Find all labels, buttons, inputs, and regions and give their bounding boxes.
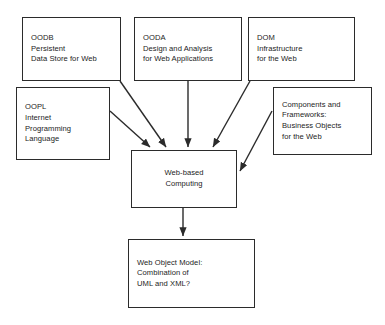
oopl-box-line: Programming [25, 124, 109, 135]
dom-box-line: DOM [257, 33, 354, 44]
web-based-computing-box-line: Computing [165, 179, 202, 190]
ooda-box-line: OODA [143, 33, 241, 44]
web-based-computing-box[interactable]: Web-basedComputing [131, 150, 237, 208]
web-object-model-box-line: Combination of [137, 268, 254, 279]
arrow-dom-to-web-based-computing [213, 81, 250, 147]
components-frameworks-box[interactable]: Components andFrameworks:Business Object… [273, 87, 372, 155]
components-frameworks-box-line: Components and [282, 100, 371, 111]
oopl-box-line: Internet [25, 113, 109, 124]
web-object-model-box-line: UML and XML? [137, 279, 254, 290]
web-based-computing-box-line: Web-based [164, 168, 203, 179]
oodb-box-line: Data Store for Web [31, 54, 120, 65]
components-frameworks-box-line: for the Web [282, 132, 371, 143]
oopl-box-line: OOPL [25, 102, 109, 113]
diagram-canvas: OODBPersistentData Store for WebOODADesi… [0, 0, 385, 325]
ooda-box-line: for Web Applications [143, 54, 241, 65]
oodb-box-line: Persistent [31, 44, 120, 55]
oopl-box-line: Language [25, 134, 109, 145]
ooda-box-line: Design and Analysis [143, 44, 241, 55]
web-object-model-box[interactable]: Web Object Model:Combination ofUML and X… [128, 239, 255, 308]
oodb-box[interactable]: OODBPersistentData Store for Web [22, 17, 121, 81]
web-object-model-box-line: Web Object Model: [137, 258, 254, 269]
dom-box-line: Infrastructure [257, 44, 354, 55]
components-frameworks-box-line: Business Objects [282, 121, 371, 132]
arrow-components-to-web-based-computing [240, 111, 272, 171]
oopl-box[interactable]: OOPLInternetProgrammingLanguage [16, 87, 110, 160]
dom-box-line: for the Web [257, 54, 354, 65]
dom-box[interactable]: DOMInfrastructurefor the Web [248, 17, 355, 81]
components-frameworks-box-line: Frameworks: [282, 110, 371, 121]
ooda-box[interactable]: OODADesign and Analysisfor Web Applicati… [134, 17, 242, 81]
arrow-oodb-to-web-based-computing [120, 81, 166, 147]
oodb-box-line: OODB [31, 33, 120, 44]
